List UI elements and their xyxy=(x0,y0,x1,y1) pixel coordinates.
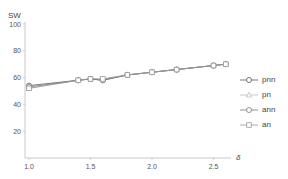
axes: SW δ xyxy=(8,11,241,162)
y-tick-label: 60 xyxy=(13,74,21,81)
x-tick-label: 2.0 xyxy=(147,163,157,170)
x-ticks: 1.01.52.02.5 xyxy=(24,158,218,170)
x-tick-label: 2.5 xyxy=(209,163,219,170)
square-marker-icon xyxy=(211,63,216,68)
series-an xyxy=(27,62,228,91)
triangle-marker-icon xyxy=(246,92,251,97)
legend-swatch-icon xyxy=(240,106,258,114)
legend-item-pn: pn xyxy=(240,87,275,102)
y-tick-label: 80 xyxy=(13,47,21,54)
y-tick-label: 100 xyxy=(9,21,21,28)
legend-swatch-icon xyxy=(240,121,258,129)
square-marker-icon xyxy=(150,70,155,75)
circle-marker-icon xyxy=(247,107,252,112)
legend-label: ann xyxy=(262,105,275,114)
data-series xyxy=(26,61,228,90)
square-marker-icon xyxy=(88,77,93,82)
square-marker-icon xyxy=(27,86,32,91)
x-tick-label: 1.0 xyxy=(24,163,34,170)
square-marker-icon xyxy=(125,73,130,78)
circle-marker-icon xyxy=(247,77,252,82)
legend: pnnpnannan xyxy=(240,72,275,132)
legend-label: pn xyxy=(262,90,271,99)
square-marker-icon xyxy=(224,62,229,67)
square-marker-icon xyxy=(174,67,179,72)
legend-item-an: an xyxy=(240,117,275,132)
y-ticks: 20406080100 xyxy=(9,21,25,135)
legend-label: an xyxy=(262,120,271,129)
legend-swatch-icon xyxy=(240,76,258,84)
legend-item-pnn: pnn xyxy=(240,72,275,87)
legend-item-ann: ann xyxy=(240,102,275,117)
legend-swatch-icon xyxy=(240,91,258,99)
x-tick-label: 1.5 xyxy=(86,163,96,170)
legend-label: pnn xyxy=(262,75,275,84)
x-axis-label: δ xyxy=(236,153,241,162)
y-axis-label: SW xyxy=(8,11,21,20)
square-marker-icon xyxy=(76,78,81,83)
square-marker-icon xyxy=(247,122,252,127)
y-tick-label: 40 xyxy=(13,101,21,108)
square-marker-icon xyxy=(101,77,106,82)
y-tick-label: 20 xyxy=(13,128,21,135)
